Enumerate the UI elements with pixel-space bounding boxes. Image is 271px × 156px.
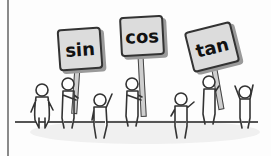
stick-figure-6 bbox=[203, 76, 219, 124]
stick-figure-3 bbox=[92, 94, 112, 138]
stick-figure-5 bbox=[171, 93, 194, 138]
stick-figures bbox=[0, 0, 271, 156]
stick-figure-7 bbox=[235, 85, 253, 128]
stick-figure-2 bbox=[62, 78, 78, 128]
stick-figure-4 bbox=[126, 78, 142, 126]
stick-figure-1 bbox=[31, 84, 53, 128]
illustration-canvas: sin cos tan bbox=[0, 0, 271, 156]
